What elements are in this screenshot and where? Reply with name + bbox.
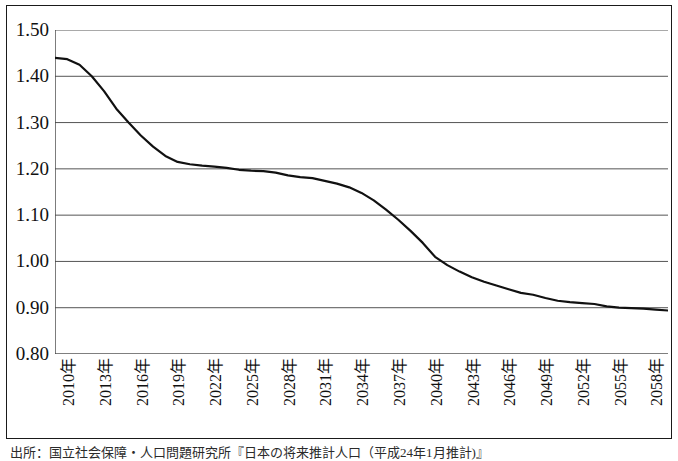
- x-axis-tick-labels: 2010年2013年2016年2019年2022年2025年2028年2031年…: [55, 358, 675, 438]
- y-tick-label: 0.90: [16, 298, 49, 317]
- x-tick-label: 2034年: [355, 358, 371, 406]
- y-tick-label: 1.40: [16, 66, 49, 85]
- y-tick-label: 1.50: [16, 20, 49, 39]
- y-axis-tick-labels: 0.800.901.001.101.201.301.401.50: [0, 0, 49, 400]
- x-tick-label: 2028年: [282, 358, 298, 406]
- x-tick-label: 2052年: [576, 358, 592, 406]
- x-tick-label: 2040年: [429, 358, 445, 406]
- x-tick-label: 2025年: [245, 358, 261, 406]
- x-tick-label: 2016年: [135, 358, 151, 406]
- x-tick-label: 2022年: [208, 358, 224, 406]
- y-tick-label: 0.80: [16, 344, 49, 363]
- y-tick-label: 1.10: [16, 205, 49, 224]
- source-caption: 出所：国立社会保障・人口問題研究所『日本の将来推計人口（平成24年1月推計)』: [10, 445, 670, 461]
- y-tick-label: 1.20: [16, 159, 49, 178]
- x-tick-label: 2046年: [502, 358, 518, 406]
- x-tick-label: 2049年: [539, 358, 555, 406]
- y-tick-label: 1.30: [16, 113, 49, 132]
- x-tick-label: 2037年: [392, 358, 408, 406]
- x-tick-label: 2055年: [613, 358, 629, 406]
- x-tick-label: 2013年: [98, 358, 114, 406]
- line-chart-svg: [55, 30, 668, 354]
- x-tick-label: 2010年: [61, 358, 77, 406]
- figure-container: 0.800.901.001.101.201.301.401.50 2010年20…: [0, 0, 678, 461]
- plot-area: [55, 30, 668, 354]
- x-tick-label: 2019年: [171, 358, 187, 406]
- x-tick-label: 2031年: [318, 358, 334, 406]
- y-tick-label: 1.00: [16, 251, 49, 270]
- data-series-line: [55, 58, 668, 311]
- x-tick-label: 2043年: [466, 358, 482, 406]
- x-tick-label: 2058年: [649, 358, 665, 406]
